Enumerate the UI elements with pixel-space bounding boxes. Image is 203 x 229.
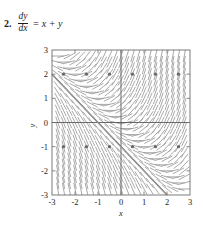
slope-segment xyxy=(125,56,129,68)
slope-segment xyxy=(90,159,94,171)
slope-segment xyxy=(66,105,72,116)
slope-segment xyxy=(148,86,152,98)
slope-segment xyxy=(153,105,158,116)
slope-segment xyxy=(101,141,107,152)
slope-segment xyxy=(176,135,182,146)
marked-point-dot xyxy=(108,72,111,75)
slope-segment xyxy=(84,147,88,159)
slope-segment xyxy=(73,141,77,153)
slope-segment xyxy=(85,153,89,165)
marked-point-dot xyxy=(62,72,65,75)
slope-segment xyxy=(55,105,60,116)
slope-segment xyxy=(113,183,117,195)
marked-point-dot xyxy=(154,145,157,148)
x-tick-label: -1 xyxy=(94,197,101,207)
slope-segment xyxy=(182,129,187,140)
slope-segment xyxy=(141,99,147,110)
slope-segment xyxy=(56,123,60,135)
slope-segment xyxy=(176,111,180,123)
slope-segment xyxy=(108,183,112,195)
slope-segment xyxy=(153,86,157,98)
slope-segment xyxy=(142,74,146,86)
slope-segment xyxy=(124,165,130,176)
slope-segment xyxy=(113,159,118,170)
marked-point-dot xyxy=(85,145,88,148)
slope-segment xyxy=(148,74,152,86)
slope-segment xyxy=(142,87,147,98)
marked-point-dot xyxy=(108,145,111,148)
slope-segment xyxy=(147,93,152,104)
slope-segment xyxy=(113,56,118,67)
slope-segment xyxy=(170,129,176,140)
slope-segment xyxy=(89,129,95,140)
slope-segment xyxy=(130,177,135,188)
slope-segment xyxy=(159,99,163,111)
slope-segment xyxy=(79,147,83,159)
slope-segment xyxy=(112,69,118,80)
slope-segment xyxy=(61,99,67,110)
slope-segment xyxy=(153,93,157,105)
slope-segment xyxy=(61,111,66,122)
slope-segment xyxy=(125,50,129,62)
slope-segment xyxy=(101,147,106,158)
slope-segment xyxy=(125,183,129,195)
y-tick-label: 0 xyxy=(44,118,48,128)
slope-segment xyxy=(101,50,106,61)
slope-segment xyxy=(107,153,112,164)
slope-segment xyxy=(96,153,100,165)
differential-equation: dy dx = x + y xyxy=(18,12,63,33)
slope-segment xyxy=(78,123,83,134)
x-axis-title: x xyxy=(118,208,123,218)
slope-segment xyxy=(136,68,140,80)
slope-segment xyxy=(179,174,190,180)
slope-field-figure: -3-2-10123-3-2-10123xy xyxy=(0,40,203,229)
slope-segment xyxy=(164,123,170,134)
x-tick-label: 1 xyxy=(142,197,146,207)
slope-segment xyxy=(90,147,94,159)
slope-segment xyxy=(107,63,113,74)
slope-segment xyxy=(107,50,112,61)
slope-segment xyxy=(79,135,83,147)
slope-segment xyxy=(67,135,71,147)
slope-segment xyxy=(61,123,65,135)
slope-segment xyxy=(159,111,164,122)
slope-segment xyxy=(107,147,113,158)
slope-segment xyxy=(165,92,169,104)
slope-segment xyxy=(56,111,60,123)
slope-segment xyxy=(102,171,106,183)
problem-header: 2. dy dx = x + y xyxy=(4,8,62,38)
slope-segment xyxy=(101,57,107,68)
fraction-numerator: dy xyxy=(18,12,29,22)
slope-segment xyxy=(84,129,89,140)
y-tick-label: -2 xyxy=(41,166,48,176)
slope-segment xyxy=(142,68,146,80)
marked-point-dot xyxy=(131,72,134,75)
slope-segment xyxy=(135,93,141,104)
slope-segment xyxy=(131,50,135,62)
slope-segment xyxy=(84,135,89,146)
slope-segment xyxy=(79,141,83,153)
marked-point-dot xyxy=(154,72,157,75)
slope-segment xyxy=(55,93,61,104)
slope-segment xyxy=(136,81,141,92)
slope-segment xyxy=(101,153,106,164)
slope-segment xyxy=(113,63,118,74)
y-tick-label: 1 xyxy=(44,93,48,103)
slope-segment xyxy=(124,177,129,188)
slope-segment xyxy=(78,129,83,140)
plot-axes xyxy=(52,50,190,195)
slope-segment xyxy=(148,80,152,92)
slope-segment xyxy=(90,135,95,146)
slope-segment xyxy=(95,141,100,152)
slope-segment xyxy=(171,111,175,123)
slope-segment xyxy=(153,99,158,110)
slope-field-plot: -3-2-10123-3-2-10123xy xyxy=(0,40,203,229)
slope-segment xyxy=(124,68,129,79)
slope-segment xyxy=(136,62,140,74)
slope-segment xyxy=(52,65,63,71)
slope-segment xyxy=(124,171,129,182)
slope-segment xyxy=(91,183,94,195)
slope-segment xyxy=(67,111,72,122)
slope-segment xyxy=(73,135,77,147)
slope-segment xyxy=(67,123,71,135)
